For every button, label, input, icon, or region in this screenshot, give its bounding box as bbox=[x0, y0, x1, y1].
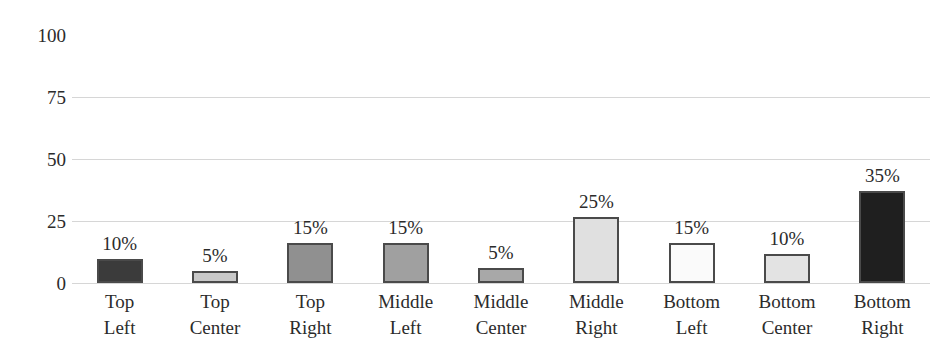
bar[interactable] bbox=[478, 268, 524, 283]
x-axis-tick-label: TopRight bbox=[259, 289, 361, 341]
x-axis-tick-label: MiddleCenter bbox=[450, 289, 552, 341]
bar[interactable] bbox=[383, 243, 429, 283]
x-axis-tick-label-line2: Right bbox=[259, 315, 361, 341]
y-axis-tick-label: 0 bbox=[8, 274, 66, 293]
x-axis-tick-label-line2: Center bbox=[736, 315, 838, 341]
x-axis-tick-label-line2: Center bbox=[164, 315, 266, 341]
x-axis-tick-label: BottomCenter bbox=[736, 289, 838, 341]
y-axis-tick-label: 75 bbox=[8, 88, 66, 107]
bar-group: 5%MiddleCenter bbox=[456, 0, 546, 357]
x-axis-tick-label-line2: Right bbox=[831, 315, 933, 341]
y-axis-tick-label: 50 bbox=[8, 150, 66, 169]
x-axis-tick-label: TopLeft bbox=[69, 289, 171, 341]
bar[interactable] bbox=[97, 259, 143, 283]
x-axis-tick-label: BottomRight bbox=[831, 289, 933, 341]
bar-chart: 1007550250 10%TopLeft5%TopCenter15%TopRi… bbox=[0, 0, 948, 357]
x-axis-tick-label-line1: Top bbox=[164, 289, 266, 315]
x-axis-tick-label: MiddleRight bbox=[545, 289, 647, 341]
bar-group: 35%BottomRight bbox=[837, 0, 927, 357]
bar-group: 10%TopLeft bbox=[75, 0, 165, 357]
x-axis-tick-label-line2: Left bbox=[641, 315, 743, 341]
y-axis-tick-label: 25 bbox=[8, 212, 66, 231]
bar-value-label: 15% bbox=[265, 218, 355, 237]
x-axis-tick-label-line1: Bottom bbox=[736, 289, 838, 315]
bar-value-label: 15% bbox=[361, 218, 451, 237]
bar-value-label: 10% bbox=[742, 229, 832, 248]
bar-group: 15%MiddleLeft bbox=[361, 0, 451, 357]
x-axis-tick-label: TopCenter bbox=[164, 289, 266, 341]
bar[interactable] bbox=[192, 271, 238, 283]
x-axis-tick-label-line1: Middle bbox=[355, 289, 457, 315]
x-axis-tick-label: MiddleLeft bbox=[355, 289, 457, 341]
bar-value-label: 5% bbox=[456, 243, 546, 262]
bar[interactable] bbox=[764, 254, 810, 283]
bar-group: 5%TopCenter bbox=[170, 0, 260, 357]
bar-value-label: 5% bbox=[170, 246, 260, 265]
x-axis-tick-label-line2: Center bbox=[450, 315, 552, 341]
bar-value-label: 25% bbox=[551, 192, 641, 211]
y-axis-tick-label: 100 bbox=[8, 26, 66, 45]
bar-value-label: 15% bbox=[647, 218, 737, 237]
x-axis-tick-label-line2: Left bbox=[69, 315, 171, 341]
x-axis-tick-label-line1: Top bbox=[259, 289, 361, 315]
bar-group: 15%TopRight bbox=[265, 0, 355, 357]
x-axis-tick-label-line1: Bottom bbox=[831, 289, 933, 315]
x-axis-tick-label-line2: Right bbox=[545, 315, 647, 341]
bar[interactable] bbox=[669, 243, 715, 283]
bar-value-label: 10% bbox=[75, 234, 165, 253]
bar[interactable] bbox=[573, 217, 619, 283]
bar-group: 15%BottomLeft bbox=[647, 0, 737, 357]
bar[interactable] bbox=[859, 191, 905, 283]
x-axis-tick-label-line1: Bottom bbox=[641, 289, 743, 315]
y-axis: 1007550250 bbox=[0, 0, 66, 357]
x-axis-tick-label-line1: Middle bbox=[545, 289, 647, 315]
bar-value-label: 35% bbox=[837, 166, 927, 185]
bar[interactable] bbox=[287, 243, 333, 283]
x-axis-tick-label-line1: Middle bbox=[450, 289, 552, 315]
x-axis-tick-label-line1: Top bbox=[69, 289, 171, 315]
bar-group: 25%MiddleRight bbox=[551, 0, 641, 357]
x-axis-tick-label-line2: Left bbox=[355, 315, 457, 341]
x-axis-tick-label: BottomLeft bbox=[641, 289, 743, 341]
bar-group: 10%BottomCenter bbox=[742, 0, 832, 357]
plot-area: 10%TopLeft5%TopCenter15%TopRight15%Middl… bbox=[72, 0, 930, 357]
